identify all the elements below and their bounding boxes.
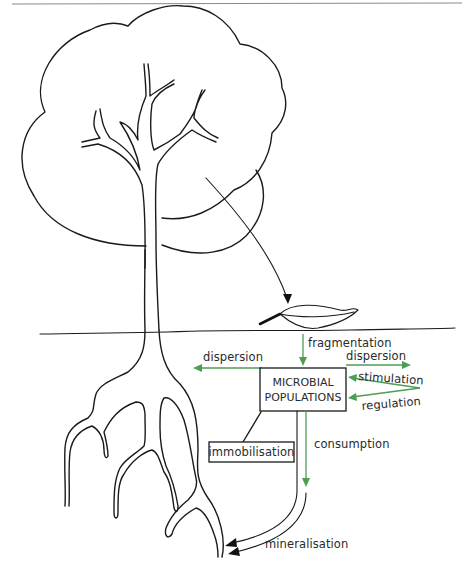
top-rule xyxy=(12,3,462,4)
regulation-label: regulation xyxy=(361,394,421,413)
microbial-box-line2: POPULATIONS xyxy=(265,391,342,404)
tree-canopy xyxy=(22,6,286,246)
mineralisation-arrow-outer xyxy=(232,411,297,543)
diagram-canvas: fragmentation dispersion dispersion stim… xyxy=(0,0,476,577)
mineralisation-label: mineralisation xyxy=(265,537,348,551)
microbial-box-line1: MICROBIAL xyxy=(272,376,334,389)
dispersion-left-label: dispersion xyxy=(203,350,263,364)
leaf-fall-arrowhead xyxy=(283,294,292,304)
regulation-arrowhead xyxy=(348,393,357,401)
fragmentation-arrowhead xyxy=(299,357,307,366)
tree-trunk-lower-left xyxy=(65,250,145,506)
dispersion-right-label: dispersion xyxy=(346,349,406,363)
stimulation-arrowhead xyxy=(348,374,357,382)
fallen-leaf xyxy=(260,305,358,328)
microbial-populations-box: MICROBIAL POPULATIONS xyxy=(260,368,346,411)
immobilisation-label: immobilisation xyxy=(209,445,295,459)
consumption-arrowhead xyxy=(302,478,310,487)
leaf-fall-arrow xyxy=(206,178,287,298)
consumption-label: consumption xyxy=(314,437,390,451)
mineralisation-arrowhead-inner xyxy=(228,547,240,556)
stimulation-label: stimulation xyxy=(358,369,424,388)
mineralisation-arrowhead-outer xyxy=(225,538,237,547)
immobilisation-connector xyxy=(243,412,261,442)
immobilisation-box: immobilisation xyxy=(209,442,295,462)
dispersion-left-arrowhead xyxy=(193,364,202,372)
tree-trunk xyxy=(82,64,218,330)
fragmentation-label: fragmentation xyxy=(308,336,392,350)
soil-surface-line xyxy=(40,328,455,334)
